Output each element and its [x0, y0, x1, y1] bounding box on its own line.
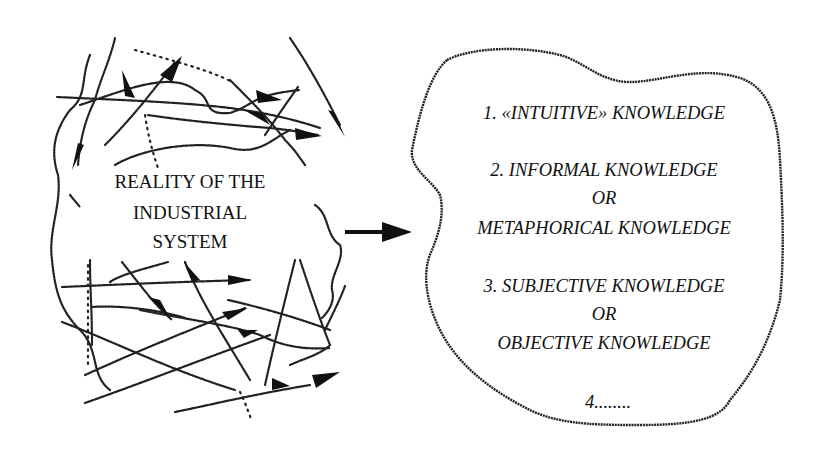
- arrow-right-icon: [345, 222, 412, 242]
- knowledge-item-1: 1. «INTUITIVE» KNOWLEDGE: [483, 103, 725, 123]
- reality-label-line-3: SYSTEM: [153, 231, 228, 252]
- arrowhead: [228, 275, 252, 285]
- reality-tangle: [51, 38, 345, 422]
- knowledge-item-2-or: OR: [592, 188, 617, 208]
- knowledge-item-3-alt: OBJECTIVE KNOWLEDGE: [497, 333, 710, 353]
- knowledge-list: 1. «INTUITIVE» KNOWLEDGE 2. INFORMAL KNO…: [476, 103, 731, 412]
- knowledge-item-4: 4........: [585, 392, 631, 412]
- arrowhead: [122, 70, 135, 98]
- tangle-line: [325, 286, 345, 330]
- tangle-line: [148, 115, 318, 135]
- reality-label-line-2: INDUSTRIAL: [133, 202, 247, 223]
- arrowhead: [312, 372, 340, 388]
- tangle-line: [265, 260, 295, 385]
- reality-label-line-1: REALITY OF THE: [115, 171, 266, 192]
- knowledge-item-3: 3. SUBJECTIVE KNOWLEDGE: [483, 276, 725, 296]
- arrowhead: [328, 110, 345, 137]
- diagram-canvas: REALITY OF THE INDUSTRIAL SYSTEM 1. «INT…: [0, 0, 818, 463]
- knowledge-item-3-or: OR: [592, 304, 617, 324]
- reality-outline-right: [315, 205, 341, 318]
- tangle-line: [115, 130, 290, 165]
- knowledge-item-2: 2. INFORMAL KNOWLEDGE: [490, 160, 717, 180]
- arrowhead: [222, 308, 248, 320]
- arrowhead: [256, 90, 282, 103]
- tangle-line: [70, 195, 80, 207]
- dotted-line: [145, 115, 158, 168]
- reality-label: REALITY OF THE INDUSTRIAL SYSTEM: [115, 171, 266, 252]
- knowledge-item-2-alt: METAPHORICAL KNOWLEDGE: [476, 218, 731, 238]
- dotted-line: [135, 50, 232, 82]
- tangle-line: [110, 262, 168, 282]
- tangle-line: [78, 38, 115, 165]
- arrowhead: [184, 262, 200, 282]
